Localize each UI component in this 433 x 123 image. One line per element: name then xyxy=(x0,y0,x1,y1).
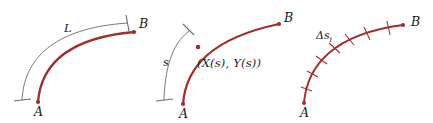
curve-end-point-b xyxy=(277,22,281,26)
guide-arc-tick-start xyxy=(156,99,173,101)
panel-1-label-a: A xyxy=(34,106,43,119)
panel-arc-length-parameter: A B s (X(s), Y(s)) xyxy=(143,0,293,123)
subdivision-tick-5 xyxy=(345,34,354,45)
main-curve-path xyxy=(38,32,134,102)
guide-arc-tick-start xyxy=(14,99,31,101)
subdivision-ticks-group xyxy=(301,21,390,91)
panel-3-label-delta-s: Δsi xyxy=(316,30,332,44)
guide-arc-group xyxy=(156,24,194,101)
panel-3-label-b: B xyxy=(411,16,420,29)
panel-3-delta-s-text: Δs xyxy=(316,29,330,42)
guide-arc-tick-end xyxy=(183,24,194,35)
panel-3-delta-s-subscript: i xyxy=(330,35,333,44)
curve-end-point-b xyxy=(401,23,405,27)
curve-point-at-s xyxy=(196,45,201,50)
panel-2-label-point-coordinates: (X(s), Y(s)) xyxy=(197,58,261,70)
panel-2-label-a: A xyxy=(179,108,188,121)
panel-1-label-arc-length: L xyxy=(64,23,72,35)
panel-3-label-a: A xyxy=(300,107,309,120)
panel-total-arc-length: A B L xyxy=(0,0,150,123)
curve-end-point-b xyxy=(132,30,136,34)
main-curve-group xyxy=(36,30,136,104)
panel-1-graphic xyxy=(0,0,150,123)
panel-arc-length-subdivision: A B Δsi xyxy=(285,0,433,123)
panel-2-label-arc-parameter: s xyxy=(163,57,169,69)
curve-arc-length-figure: A B L A B s (X(s), Y(s)) xyxy=(0,0,433,123)
